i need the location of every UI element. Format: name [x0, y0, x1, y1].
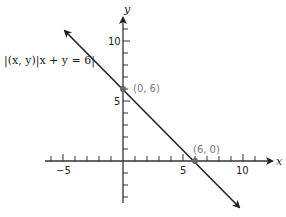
y-axis-label: y	[123, 3, 131, 16]
point-y-intercept	[120, 86, 126, 92]
point-label-6-0: (6, 0)	[193, 144, 220, 155]
x-tick-label: 10	[236, 165, 249, 176]
y-tick-label: 5	[114, 96, 120, 107]
x-axis: −5 5 10 x	[45, 154, 283, 176]
x-ticks	[51, 154, 255, 161]
x-tick-label: −5	[56, 165, 71, 176]
point-x-intercept	[192, 158, 198, 164]
coordinate-plane: −5 5 10 x 5 10 y (0,	[0, 0, 286, 217]
y-axis: 5 10 y	[108, 3, 131, 203]
x-axis-label: x	[276, 155, 283, 168]
x-tick-label: 5	[180, 165, 186, 176]
y-tick-label: 10	[108, 36, 121, 47]
y-ticks	[123, 29, 130, 197]
set-notation-label: |(x, y)|x + y = 6|	[4, 54, 95, 68]
point-label-0-6: (0, 6)	[133, 83, 160, 94]
